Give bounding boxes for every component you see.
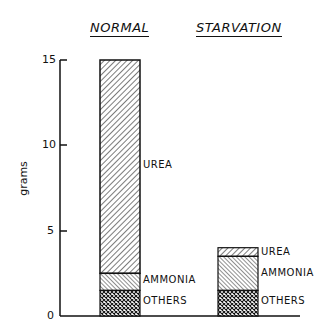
starvation-others-label: OTHERS [261,295,305,306]
starvation-ammonia-label: AMMONIA [261,267,314,278]
normal-ammonia-label: AMMONIA [143,274,196,285]
bar-starvation [218,248,258,316]
starvation-urea-label: UREA [261,246,290,257]
normal-others-label: OTHERS [143,295,187,306]
bar-normal [100,60,140,316]
normal-urea-label: UREA [143,159,172,170]
y-axis [60,60,67,316]
